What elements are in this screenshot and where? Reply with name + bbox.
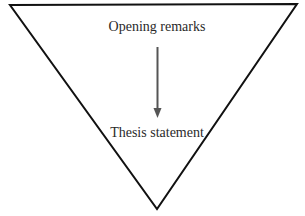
down-arrow-icon	[154, 47, 162, 118]
thesis-statement-label: Thesis statement	[0, 125, 305, 141]
opening-remarks-label: Opening remarks	[0, 19, 305, 35]
